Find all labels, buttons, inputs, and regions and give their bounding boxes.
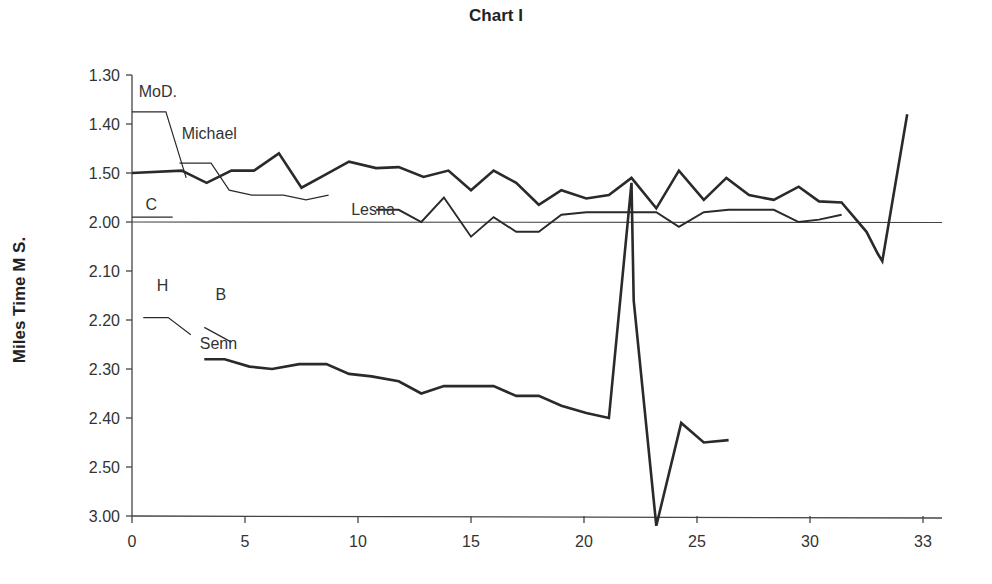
x-tick-label: 25 (688, 533, 706, 550)
reference-line (132, 222, 942, 223)
series-b: B (204, 286, 231, 342)
y-tick-label: 2.10 (89, 263, 120, 280)
y-tick-label: 3.00 (89, 508, 120, 525)
line-chart: 1.301.401.502.002.102.202.302.402.503.00… (0, 0, 992, 584)
series-label: B (216, 286, 227, 303)
y-tick-label: 2.00 (89, 214, 120, 231)
series-michael: Michael (180, 125, 329, 200)
series-label: Senn (200, 335, 237, 352)
y-tick-label: 2.20 (89, 312, 120, 329)
x-tick-label: 15 (462, 533, 480, 550)
x-axis: 05101520253033 (128, 516, 942, 550)
x-tick-label: 33 (914, 533, 932, 550)
series-mod: MoD. (132, 83, 186, 178)
x-tick-label: 30 (801, 533, 819, 550)
series-label: MoD. (139, 83, 177, 100)
series-label: Michael (182, 125, 237, 142)
y-tick-label: 2.30 (89, 361, 120, 378)
series-main-bold (132, 114, 907, 261)
x-tick-label: 20 (575, 533, 593, 550)
x-tick-label: 5 (241, 533, 250, 550)
y-tick-label: 1.40 (89, 116, 120, 133)
x-tick-label: 10 (349, 533, 367, 550)
x-tick-label: 0 (128, 533, 137, 550)
y-tick-label: 2.50 (89, 459, 120, 476)
series-label: Lesna (351, 201, 395, 218)
series-c: C (132, 196, 173, 217)
y-tick-label: 2.40 (89, 410, 120, 427)
series-h: H (143, 277, 191, 335)
series-label: C (146, 196, 158, 213)
series-senn: Senn (200, 183, 729, 526)
y-axis: 1.301.401.502.002.102.202.302.402.503.00 (89, 67, 132, 525)
series-lesna: Lesna (351, 198, 841, 237)
y-tick-label: 1.50 (89, 165, 120, 182)
series-label: H (157, 277, 169, 294)
y-tick-label: 1.30 (89, 67, 120, 84)
